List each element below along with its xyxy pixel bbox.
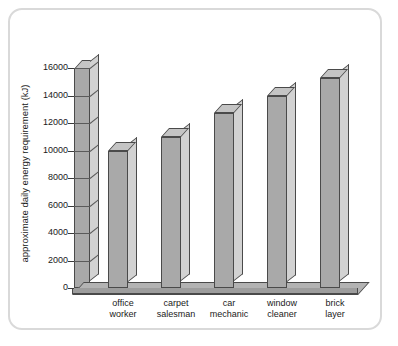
y-tick-mark <box>68 96 74 97</box>
y-tick-label: 8000 <box>30 173 68 182</box>
y-tick-label: 10000 <box>30 146 68 155</box>
y-tick-mark <box>68 288 74 289</box>
bar-front-face <box>161 137 181 288</box>
y-tick-label: 12000 <box>30 118 68 127</box>
bar-side-face <box>128 136 137 281</box>
bar-side-face <box>234 99 243 281</box>
gridline <box>74 233 90 234</box>
x-category-label-line: layer <box>304 309 366 320</box>
y-tick-mark <box>68 151 74 152</box>
gridline <box>74 206 90 207</box>
bar-chart: approximate daily energy requirement (kJ… <box>0 0 398 346</box>
y-tick-mark <box>68 261 74 262</box>
bar-side-face <box>340 64 349 281</box>
y-tick-mark <box>68 123 74 124</box>
y-tick-mark <box>68 68 74 69</box>
gridline <box>74 96 90 97</box>
bar <box>320 69 349 288</box>
y-tick-mark <box>68 178 74 179</box>
bar-side-face <box>181 123 190 281</box>
gridline <box>74 151 90 152</box>
x-category-label-line: brick <box>304 298 366 309</box>
chart-floor-front <box>72 288 358 294</box>
y-tick-mark <box>68 206 74 207</box>
gridline <box>74 68 90 69</box>
y-tick-label: 2000 <box>30 256 68 265</box>
y-axis-wall-side <box>90 54 99 281</box>
bar-front-face <box>108 151 128 289</box>
y-tick-label: 16000 <box>30 63 68 72</box>
y-tick-label: 0 <box>30 283 68 292</box>
gridline <box>74 123 90 124</box>
y-tick-label: 14000 <box>30 91 68 100</box>
x-category-label: bricklayer <box>304 298 366 320</box>
y-axis-tick-labels: 0200040006000800010000120001400016000 <box>26 0 68 346</box>
bar-front-face <box>214 113 234 288</box>
gridline <box>74 178 90 179</box>
y-tick-label: 4000 <box>30 228 68 237</box>
bar-front-face <box>320 78 340 288</box>
y-tick-label: 6000 <box>30 201 68 210</box>
bar <box>108 142 137 289</box>
bar-front-face <box>267 96 287 289</box>
gridline <box>74 261 90 262</box>
bar <box>214 104 243 288</box>
bar <box>161 128 190 288</box>
y-tick-mark <box>68 233 74 234</box>
bar <box>267 87 296 289</box>
bar-side-face <box>287 81 296 281</box>
